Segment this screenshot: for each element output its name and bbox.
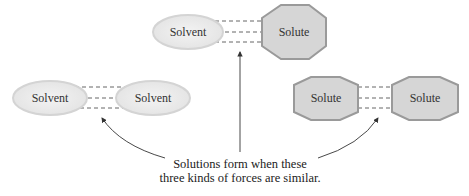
arrow-right-icon — [318, 118, 378, 158]
caption-line-1: Solutions form when these — [173, 157, 307, 171]
solute-label: Solute — [311, 91, 342, 105]
solute-solute-group: Solute Solute — [294, 77, 458, 120]
solute-label: Solute — [410, 91, 441, 105]
intermolecular-forces-diagram: Solvent Solute Solvent Solvent Solute So… — [0, 0, 469, 196]
caption-line-2: three kinds of forces are similar. — [159, 171, 320, 185]
solvent-label: Solvent — [170, 25, 207, 39]
solvent-solvent-group: Solvent Solvent — [13, 81, 190, 115]
arrow-left-icon — [102, 118, 165, 158]
solvent-label: Solvent — [135, 91, 172, 105]
solvent-label: Solvent — [32, 91, 69, 105]
solvent-solute-group: Solvent Solute — [153, 5, 326, 59]
solute-label: Solute — [279, 25, 310, 39]
dashed-force-lines — [358, 87, 392, 108]
